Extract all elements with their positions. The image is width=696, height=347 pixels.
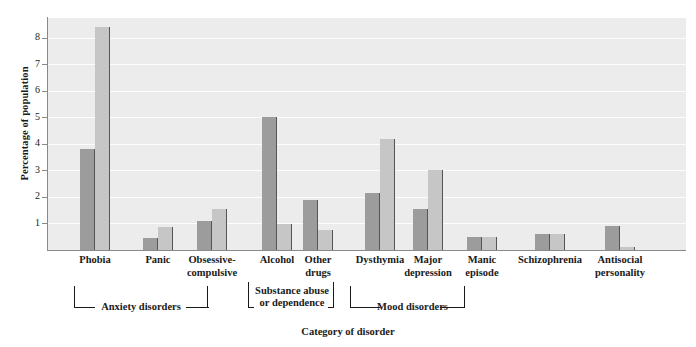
- y-tick-label-3: 3: [22, 164, 40, 175]
- bar: [212, 209, 227, 250]
- bar: [197, 221, 212, 250]
- y-tick-label-4: 4: [22, 137, 40, 148]
- y-axis-line: [47, 17, 48, 251]
- y-tick-label-8: 8: [22, 31, 40, 42]
- y-tick-mark-2: [42, 197, 48, 198]
- x-axis-label: compulsive: [162, 267, 262, 280]
- bar-group: [604, 18, 636, 250]
- bar: [467, 237, 482, 250]
- bar: [620, 247, 635, 250]
- bar: [550, 234, 565, 250]
- bracket-anxiety-label: Anxiety disorders: [92, 301, 190, 314]
- y-tick-label-1: 1: [22, 217, 40, 228]
- bar: [365, 193, 380, 250]
- bar-group: [412, 18, 444, 250]
- x-axis-line: [47, 250, 686, 251]
- y-tick-mark-5: [42, 117, 48, 118]
- x-axis-label: episode: [432, 267, 532, 280]
- bar: [95, 27, 110, 250]
- x-axis-label: personality: [570, 267, 670, 280]
- bar: [605, 226, 620, 250]
- y-tick-mark-7: [42, 64, 48, 65]
- bar-group: [261, 18, 293, 250]
- bar: [303, 200, 318, 250]
- bar-group: [79, 18, 111, 250]
- x-axis-label: Antisocial: [570, 254, 670, 267]
- x-axis-title: Category of disorder: [0, 326, 696, 337]
- y-tick-label-7: 7: [22, 58, 40, 69]
- bracket-mood-label: Mood disorders: [377, 301, 443, 314]
- bar-chart: Percentage of population 12345678 Phobia…: [0, 0, 696, 347]
- bar: [143, 238, 158, 250]
- bar: [413, 209, 428, 250]
- bar-group: [534, 18, 566, 250]
- bar: [318, 230, 333, 250]
- y-tick-label-6: 6: [22, 84, 40, 95]
- bar-group: [196, 18, 228, 250]
- bar: [277, 224, 292, 251]
- bar: [80, 149, 95, 250]
- bar: [158, 227, 173, 250]
- bar: [262, 117, 277, 250]
- bar-group: [302, 18, 334, 250]
- y-tick-mark-6: [42, 91, 48, 92]
- bar: [482, 237, 497, 250]
- y-tick-mark-4: [42, 144, 48, 145]
- y-tick-mark-3: [42, 170, 48, 171]
- bar-group: [364, 18, 396, 250]
- y-tick-mark-1: [42, 223, 48, 224]
- y-tick-mark-8: [42, 38, 48, 39]
- bracket-substance-label-2: or dependence: [250, 297, 334, 310]
- y-tick-label-2: 2: [22, 190, 40, 201]
- bar: [535, 234, 550, 250]
- y-tick-label-5: 5: [22, 111, 40, 122]
- bar-group: [466, 18, 498, 250]
- bar: [428, 170, 443, 250]
- x-axis-label: drugs: [268, 267, 368, 280]
- bar: [380, 139, 395, 250]
- bracket-substance-label-1: Substance abuse: [250, 285, 334, 298]
- bar-group: [142, 18, 174, 250]
